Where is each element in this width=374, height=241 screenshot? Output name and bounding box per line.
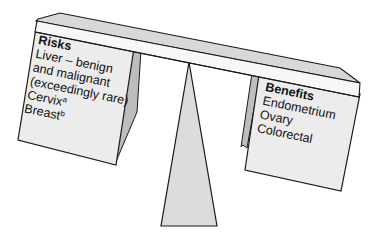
fulcrum-triangle [161,62,217,226]
